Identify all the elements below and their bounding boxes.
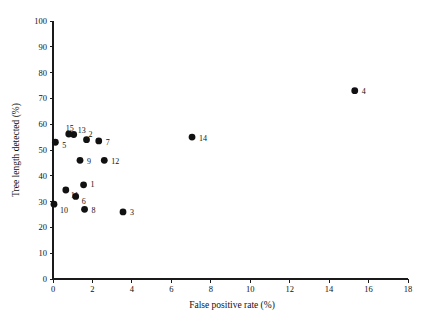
- scatter-plot-figure: 0102030405060708090100 Tree length detec…: [0, 0, 429, 322]
- data-point-marker: [51, 201, 58, 208]
- x-axis-ticks: 024681012141618: [51, 279, 412, 294]
- data-point-label: 11: [71, 191, 79, 200]
- data-point-marker: [81, 206, 88, 213]
- data-point-label: 3: [130, 208, 134, 217]
- x-axis-group: 024681012141618 False positive rate (%): [51, 279, 412, 311]
- y-tick-label: 30: [39, 197, 48, 207]
- data-point-label: 10: [60, 206, 68, 215]
- data-point-label: 6: [82, 197, 86, 206]
- data-point-label: 5: [62, 141, 66, 150]
- data-point-marker: [189, 134, 196, 141]
- y-tick-label: 80: [39, 68, 48, 78]
- data-point-marker: [95, 138, 102, 145]
- y-tick-label: 0: [43, 274, 47, 284]
- data-point-series: 123456789101112131415: [51, 87, 366, 217]
- data-point-label: 15: [66, 124, 74, 133]
- x-tick-label: 0: [51, 284, 55, 294]
- data-point-marker: [351, 87, 358, 94]
- x-tick-label: 18: [404, 284, 413, 294]
- data-point-marker: [80, 181, 87, 188]
- y-axis-title: Tree length detected (%): [11, 103, 22, 197]
- x-tick-label: 10: [246, 284, 255, 294]
- y-tick-label: 50: [39, 145, 48, 155]
- x-tick-label: 6: [169, 284, 173, 294]
- y-axis-group: 0102030405060708090100 Tree length detec…: [11, 16, 53, 284]
- data-point-label: 13: [78, 126, 86, 135]
- plot-canvas: 0102030405060708090100 Tree length detec…: [0, 0, 429, 322]
- y-tick-label: 20: [39, 222, 48, 232]
- data-point-label: 1: [91, 180, 95, 189]
- data-point-label: 14: [199, 134, 207, 143]
- data-point-marker: [77, 157, 84, 164]
- y-tick-label: 10: [39, 248, 48, 258]
- x-axis-title: False positive rate (%): [189, 300, 275, 311]
- data-point-label: 2: [89, 130, 93, 139]
- x-tick-label: 2: [90, 284, 94, 294]
- data-point-marker: [120, 209, 127, 216]
- x-tick-label: 12: [285, 284, 294, 294]
- y-tick-label: 60: [39, 119, 48, 129]
- data-point-marker: [101, 157, 108, 164]
- y-tick-label: 70: [39, 93, 48, 103]
- data-point-label: 7: [106, 138, 110, 147]
- x-tick-label: 14: [325, 284, 334, 294]
- y-tick-label: 90: [39, 42, 48, 52]
- x-tick-label: 16: [364, 284, 373, 294]
- y-tick-label: 100: [34, 16, 47, 26]
- data-point-label: 8: [92, 206, 96, 215]
- data-point-label: 4: [362, 87, 366, 96]
- data-point-marker: [52, 139, 59, 146]
- x-tick-label: 4: [130, 284, 135, 294]
- data-point-label: 9: [87, 157, 91, 166]
- data-point-label: 12: [111, 157, 119, 166]
- y-tick-label: 40: [39, 171, 48, 181]
- data-point-marker: [62, 187, 69, 194]
- x-tick-label: 8: [209, 284, 213, 294]
- y-axis-ticks: 0102030405060708090100: [34, 16, 53, 284]
